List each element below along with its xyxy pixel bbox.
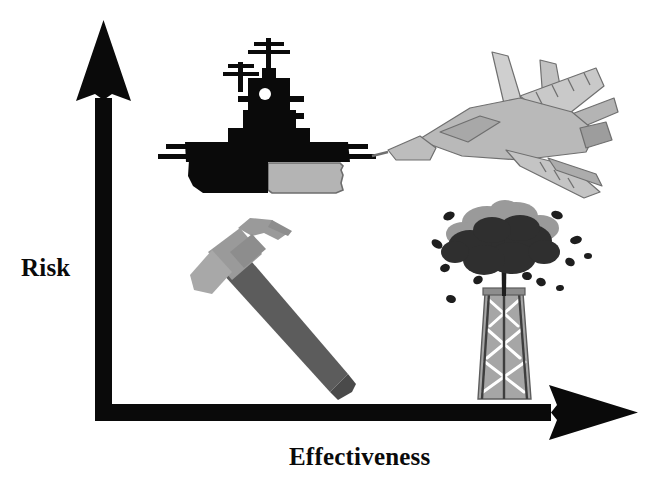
quadrant-bottom-right <box>375 212 640 402</box>
y-axis-label: Risk <box>21 254 70 282</box>
y-axis-arrowhead-icon <box>76 20 131 101</box>
x-axis-line <box>95 404 551 421</box>
y-axis <box>76 20 131 420</box>
x-axis-label: Effectiveness <box>289 443 430 471</box>
quadrant-bottom-left <box>130 212 370 402</box>
y-axis-line <box>95 98 112 420</box>
quadrant-top-left <box>130 30 370 210</box>
quadrant-top-right <box>375 30 640 210</box>
diagram-canvas: Risk Effectiveness <box>0 0 667 485</box>
